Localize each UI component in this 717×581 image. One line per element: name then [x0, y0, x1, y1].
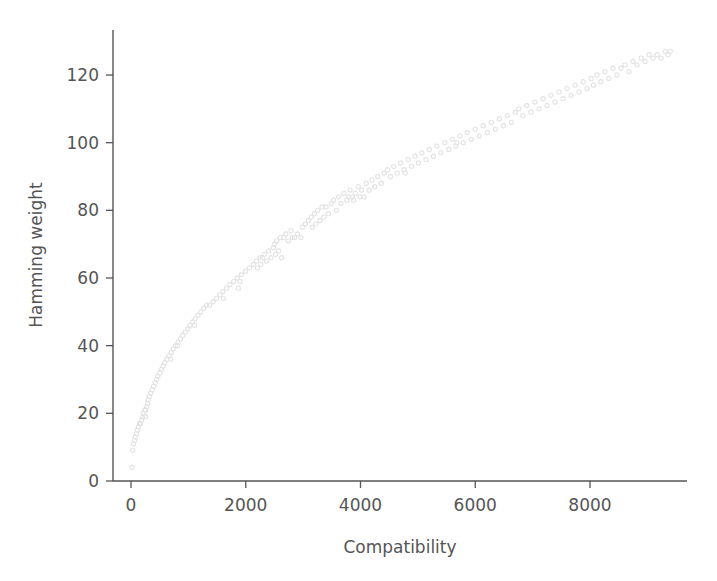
- y-axis-ticks: 020406080100120: [67, 65, 113, 491]
- scatter-series-samples: [130, 49, 672, 469]
- data-point: [269, 256, 273, 260]
- data-point: [267, 249, 271, 253]
- y-tick-label: 40: [77, 336, 99, 356]
- data-point: [326, 212, 330, 216]
- data-point: [243, 269, 247, 273]
- data-point: [348, 188, 352, 192]
- data-point: [529, 110, 533, 114]
- scatter-plot-figure: 020406080100120 02000400060008000 Compat…: [0, 0, 717, 581]
- data-point: [481, 124, 485, 128]
- data-point: [647, 53, 651, 57]
- data-point: [497, 117, 501, 121]
- data-point: [360, 188, 364, 192]
- data-point: [331, 198, 335, 202]
- data-point: [262, 252, 266, 256]
- data-point: [239, 273, 243, 277]
- data-point: [247, 266, 251, 270]
- data-point: [322, 215, 326, 219]
- data-point: [623, 63, 627, 67]
- x-axis-title: Compatibility: [343, 537, 456, 557]
- data-point: [450, 137, 454, 141]
- data-point: [589, 76, 593, 80]
- data-point: [517, 107, 521, 111]
- data-point: [549, 93, 553, 97]
- x-tick-label: 8000: [568, 495, 611, 515]
- data-point: [505, 114, 509, 118]
- data-point: [413, 154, 417, 158]
- data-point: [477, 134, 481, 138]
- data-point: [591, 83, 595, 87]
- data-point: [232, 279, 236, 283]
- data-point: [585, 86, 589, 90]
- data-point: [565, 86, 569, 90]
- x-axis-ticks: 02000400060008000: [126, 481, 612, 515]
- data-point: [569, 93, 573, 97]
- data-point: [469, 137, 473, 141]
- y-tick-label: 60: [77, 268, 99, 288]
- data-point: [416, 161, 420, 165]
- plot-canvas: 020406080100120 02000400060008000 Compat…: [0, 0, 717, 581]
- data-point: [619, 66, 623, 70]
- data-point: [509, 120, 513, 124]
- data-point: [342, 191, 346, 195]
- data-point: [289, 229, 293, 233]
- data-point: [599, 80, 603, 84]
- data-point: [143, 415, 147, 419]
- data-point: [513, 110, 517, 114]
- data-point: [611, 66, 615, 70]
- data-point: [316, 208, 320, 212]
- data-point: [561, 97, 565, 101]
- data-point: [339, 201, 343, 205]
- data-point: [537, 107, 541, 111]
- data-point: [577, 90, 581, 94]
- data-point: [370, 178, 374, 182]
- data-point: [373, 185, 377, 189]
- data-point: [541, 97, 545, 101]
- y-tick-label: 0: [88, 471, 99, 491]
- data-point: [353, 191, 357, 195]
- data-point: [221, 289, 225, 293]
- data-point: [295, 232, 299, 236]
- data-point: [439, 151, 443, 155]
- x-tick-label: 0: [126, 495, 137, 515]
- data-point: [521, 114, 525, 118]
- data-point: [314, 222, 318, 226]
- data-point: [385, 168, 389, 172]
- data-point: [668, 49, 672, 53]
- data-point: [615, 73, 619, 77]
- data-point: [493, 127, 497, 131]
- y-tick-label: 100: [67, 133, 99, 153]
- data-point: [607, 76, 611, 80]
- x-tick-label: 4000: [339, 495, 382, 515]
- data-point: [406, 157, 410, 161]
- data-point: [228, 283, 232, 287]
- data-point: [130, 465, 134, 469]
- data-point: [238, 279, 242, 283]
- data-point: [286, 239, 290, 243]
- x-tick-label: 6000: [454, 495, 497, 515]
- data-point: [627, 70, 631, 74]
- data-point: [280, 256, 284, 260]
- data-point: [312, 212, 316, 216]
- data-point: [379, 181, 383, 185]
- data-point: [208, 303, 212, 307]
- data-point: [382, 171, 386, 175]
- data-point: [356, 185, 360, 189]
- data-point: [284, 232, 288, 236]
- data-point: [553, 100, 557, 104]
- data-point: [211, 300, 215, 304]
- data-point: [595, 73, 599, 77]
- data-point: [655, 53, 659, 57]
- data-point: [545, 103, 549, 107]
- data-point: [489, 120, 493, 124]
- data-point: [310, 225, 314, 229]
- data-point: [631, 59, 635, 63]
- data-point: [409, 164, 413, 168]
- y-tick-label: 120: [67, 65, 99, 85]
- data-point: [193, 323, 197, 327]
- data-point: [458, 134, 462, 138]
- data-point: [214, 296, 218, 300]
- data-point: [447, 147, 451, 151]
- data-point: [501, 124, 505, 128]
- data-point: [424, 157, 428, 161]
